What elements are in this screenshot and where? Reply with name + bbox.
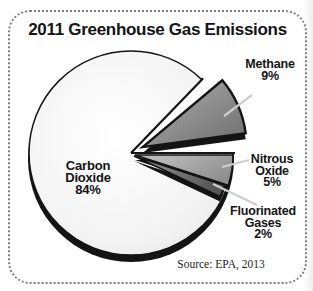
callout-fluorinated-gases-value: 2% xyxy=(217,229,309,241)
callout-fluorinated-gases: Fluorinated Gases 2% xyxy=(217,206,309,241)
callout-nitrous-oxide: Nitrous Oxide 5% xyxy=(240,154,304,189)
pie-chart xyxy=(0,0,313,291)
pie-chart-svg xyxy=(0,0,313,291)
callout-methane: Methane 9% xyxy=(228,59,312,82)
callout-carbon-dioxide: Carbon Dioxide 84% xyxy=(42,160,134,196)
source-note: Source: EPA, 2013 xyxy=(156,258,286,270)
callout-nitrous-oxide-value: 5% xyxy=(240,177,304,189)
callout-carbon-dioxide-value: 84% xyxy=(42,184,134,196)
figure-frame: 2011 Greenhouse Gas Emissions Carbon Dio… xyxy=(0,0,313,291)
callout-methane-value: 9% xyxy=(228,71,312,83)
